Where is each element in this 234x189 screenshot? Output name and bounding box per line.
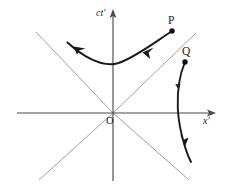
event-q-dot: [182, 59, 187, 64]
origin-label: O: [106, 116, 114, 127]
lightcone-lower-right-line: [113, 113, 189, 180]
lightcone-lines: [36, 32, 196, 180]
worldline-p-group: [68, 32, 172, 65]
worldline-q-curve: [178, 63, 191, 163]
worldline-q-group: [175, 63, 191, 163]
lightcone-lower-left-line: [39, 113, 113, 180]
ct-prime-axis-label: ct′: [96, 8, 105, 18]
worldline-p-arrowhead-left: [74, 47, 86, 55]
lightcone-upper-left-line: [36, 32, 113, 113]
x-prime-axis-label: x′: [203, 116, 210, 126]
event-p-dot: [169, 28, 174, 33]
spacetime-diagram-figure: ct′ x′ O P Q: [0, 0, 234, 189]
x-prime-axis-label-prime: ′: [207, 115, 209, 126]
axes-group: [17, 9, 216, 181]
worldline-p-curve: [68, 32, 172, 65]
event-q-label: Q: [182, 46, 190, 58]
ct-prime-axis-label-prime: ′: [103, 7, 105, 18]
event-p-label: P: [168, 15, 174, 27]
diagram-canvas: [0, 0, 234, 189]
